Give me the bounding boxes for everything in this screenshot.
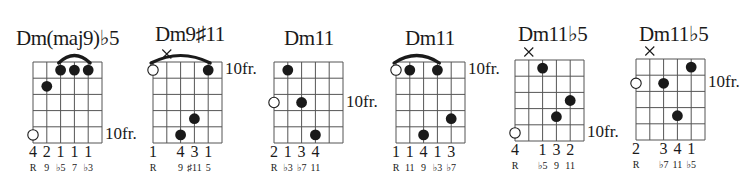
- fret-position-label: 10fr.: [708, 72, 740, 92]
- finger-dot-icon: [658, 78, 669, 89]
- muted-string-icon: [645, 47, 654, 56]
- interval-label: R: [626, 159, 646, 170]
- finger-number: 1: [684, 140, 698, 158]
- finger-number: 2: [629, 140, 643, 158]
- finger-number: 3: [657, 140, 671, 158]
- interval-label: ♭5: [681, 159, 701, 170]
- finger-dot-icon: [672, 110, 683, 121]
- finger-number: 4: [670, 140, 684, 158]
- chord-chart: Dm(maj9)♭5 10fr.42111R9♭57♭3 Dm9♯11 10fr…: [0, 0, 755, 196]
- finger-dot-icon: [686, 62, 697, 73]
- root-note-open-dot-icon: [631, 78, 641, 88]
- chord-diagram: Dm11♭5 10fr.2341R♭711♭5: [0, 0, 755, 196]
